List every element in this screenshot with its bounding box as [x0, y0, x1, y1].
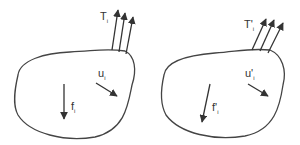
traction-label-2: T'i [244, 18, 254, 32]
body-2: T'i u'i f'i [162, 18, 285, 138]
traction-arrows-1 [112, 10, 133, 54]
traction-label-1: Ti [100, 10, 108, 24]
body-2-outline [162, 49, 285, 137]
body-force-label-1: fi [71, 100, 75, 114]
displacement-label-2: u'i [245, 67, 255, 81]
diagram-canvas: Ti ui fi T'i u'i f'i [0, 0, 300, 145]
body-force-arrow-2 [202, 84, 210, 122]
body-1: Ti ui fi [15, 10, 135, 138]
body-1-outline [15, 50, 135, 139]
displacement-arrow-2 [248, 84, 268, 96]
displacement-label-1: ui [98, 67, 105, 81]
body-force-label-2: f'i [212, 101, 219, 115]
traction-arrows-2 [252, 19, 283, 53]
displacement-arrow-1 [96, 83, 117, 96]
